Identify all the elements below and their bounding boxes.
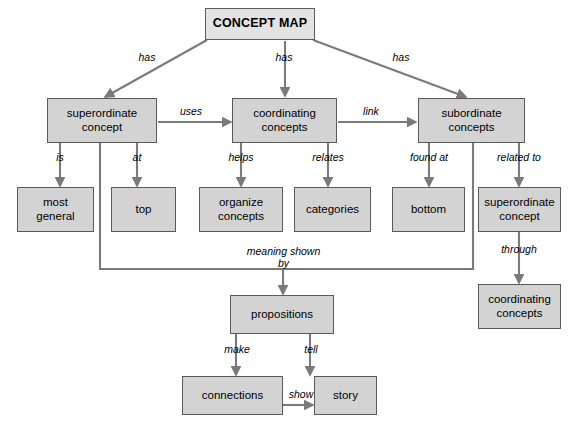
edge-label-show: show <box>284 389 318 401</box>
concept-map-diagram: CONCEPT MAP superordinate concept coordi… <box>0 0 569 444</box>
edge-label-through: through <box>490 244 548 256</box>
edge-label-helps: helps <box>220 152 262 164</box>
node-story[interactable]: story <box>314 376 377 415</box>
node-root[interactable]: CONCEPT MAP <box>205 8 315 40</box>
edge-root-to-superordinate <box>105 40 207 97</box>
edge-label-has-center: has <box>267 52 301 64</box>
edge-label-at: at <box>124 152 150 164</box>
edge-label-is: is <box>48 152 72 164</box>
node-subordinate-concepts[interactable]: subordinate concepts <box>418 98 525 143</box>
edge-label-uses: uses <box>172 106 210 118</box>
node-categories[interactable]: categories <box>294 187 371 232</box>
node-most-general[interactable]: most general <box>17 187 94 232</box>
node-organize-concepts[interactable]: organize concepts <box>199 187 283 232</box>
node-propositions[interactable]: propositions <box>230 295 334 334</box>
edge-label-meaning-shown-by: meaning shown by <box>225 246 342 269</box>
edge-label-found-at: found at <box>401 152 457 164</box>
node-coordinating-concepts-2[interactable]: coordinating concepts <box>478 284 561 329</box>
node-bottom[interactable]: bottom <box>392 187 465 232</box>
edge-label-tell: tell <box>296 344 326 356</box>
node-superordinate-concept[interactable]: superordinate concept <box>47 98 157 143</box>
edge-label-related-to: related to <box>488 152 550 164</box>
edge-label-make: make <box>219 344 255 356</box>
edge-label-has-right: has <box>384 52 418 64</box>
edge-label-relates: relates <box>303 152 353 164</box>
node-connections[interactable]: connections <box>182 376 283 415</box>
node-coordinating-concepts[interactable]: coordinating concepts <box>232 98 337 143</box>
edge-label-link: link <box>352 106 390 118</box>
node-top[interactable]: top <box>111 187 176 232</box>
edge-label-has-left: has <box>130 52 164 64</box>
edge-root-to-subordinate <box>313 40 466 97</box>
node-superordinate-concept-2[interactable]: superordinate concept <box>478 187 561 232</box>
